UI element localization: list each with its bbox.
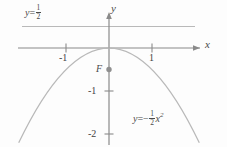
directrix-numerator: 1 bbox=[36, 4, 42, 12]
curve-minus-sign: − bbox=[143, 113, 149, 124]
figure-canvas bbox=[0, 0, 227, 147]
focus-label: F bbox=[96, 64, 102, 74]
directrix-equals: = bbox=[29, 7, 35, 18]
x-axis-arrowhead bbox=[193, 45, 200, 51]
x-tick-label-pos1: 1 bbox=[149, 53, 154, 63]
y-tick-label-neg1: -1 bbox=[88, 86, 96, 96]
focus-point-dot bbox=[106, 67, 111, 72]
x-tick-label-neg1: -1 bbox=[59, 53, 67, 63]
curve-exponent: 2 bbox=[160, 111, 164, 119]
directrix-fraction: 12 bbox=[36, 4, 42, 20]
x-axis-label: x bbox=[205, 39, 210, 50]
directrix-equation-label: y=12 bbox=[25, 4, 42, 20]
directrix-denominator: 2 bbox=[36, 12, 42, 21]
y-axis-label: y bbox=[111, 3, 116, 14]
parabola-figure: y=12 y x -1 1 -1 -2 F y=−12x2 bbox=[0, 0, 227, 147]
parabola-equation-label: y=−12x2 bbox=[133, 110, 163, 126]
y-tick-label-neg2: -2 bbox=[88, 129, 96, 139]
